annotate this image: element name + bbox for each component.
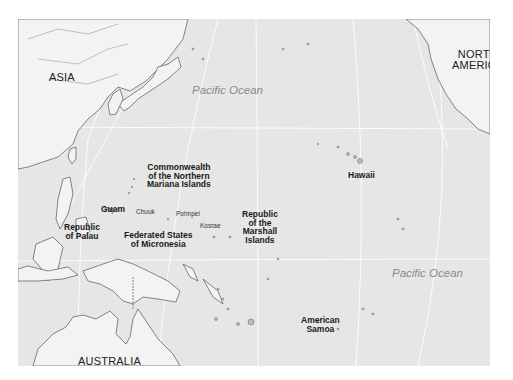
label-fsm: Federated States of Micronesia xyxy=(124,231,193,248)
label-palau: Republic of Palau xyxy=(64,223,100,240)
label-pacific-ocean-south: Pacific Ocean xyxy=(392,268,463,280)
north-america-landmass xyxy=(406,19,490,134)
label-yap: Yap xyxy=(104,207,115,214)
label-pohnpei: Pohnpei xyxy=(176,211,200,218)
label-north-america: NORTH AMERICA xyxy=(452,49,490,71)
label-kosrae: Kosrae xyxy=(200,223,221,230)
new-guinea xyxy=(83,259,223,309)
map-graphics xyxy=(18,19,490,366)
label-marshall-islands: Republic of the Marshall Islands xyxy=(242,210,278,244)
label-cnmi: Commonwealth of the Northern Mariana Isl… xyxy=(147,163,211,189)
label-asia: ASIA xyxy=(49,72,75,83)
label-hawaii: Hawaii xyxy=(348,171,375,180)
pacific-map: ASIA NORTH AMERICA AUSTRALIA Pacific Oce… xyxy=(18,19,490,366)
label-american-samoa: American Samoa xyxy=(301,316,340,333)
label-chuuk: Chuuk xyxy=(136,209,155,216)
label-pacific-ocean-north: Pacific Ocean xyxy=(192,85,263,97)
label-australia: AUSTRALIA xyxy=(78,356,141,366)
